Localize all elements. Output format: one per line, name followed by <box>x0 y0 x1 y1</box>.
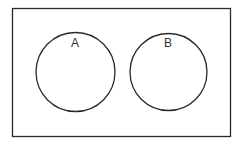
universal-set-rectangle <box>13 9 231 137</box>
set-b-label: B <box>164 36 172 50</box>
set-a-label: A <box>71 36 79 50</box>
venn-diagram: A B <box>0 0 240 142</box>
